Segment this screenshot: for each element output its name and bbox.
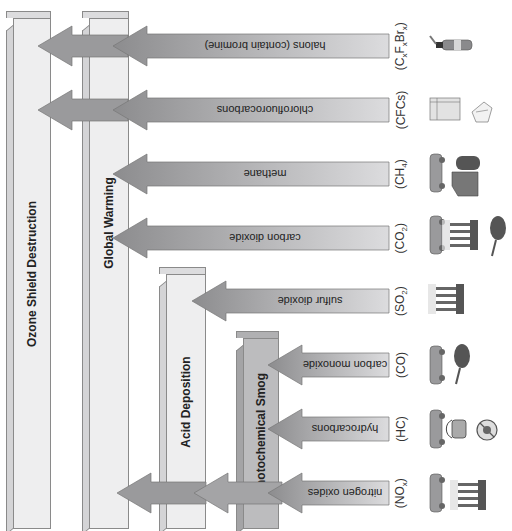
foam-container-icon xyxy=(472,102,492,122)
car-icon xyxy=(430,346,445,384)
fire-extinguisher-icon xyxy=(430,36,472,50)
pollutant-name-methane: methane xyxy=(244,168,287,180)
power-plant-icon xyxy=(450,480,486,510)
formula-halons: (CxFxBrx) xyxy=(392,20,410,72)
formula-co2: (CO2) xyxy=(392,218,410,258)
formula-cfcs: (CFCs) xyxy=(392,90,410,130)
power-plant-icon xyxy=(428,284,464,314)
landfill-icon xyxy=(452,156,480,196)
tree-cutting-icon xyxy=(454,344,470,384)
no-pesticide-icon xyxy=(477,420,497,440)
pollutant-name-co: carbon monoxide xyxy=(303,359,387,371)
car-icon xyxy=(430,154,445,192)
formula-so2: (SO2) xyxy=(392,281,410,321)
pollutant-name-co2: carbon dioxide xyxy=(229,232,301,244)
arrow-cfcs xyxy=(38,90,389,130)
formula-nox: (NOx) xyxy=(392,473,410,513)
power-plant-icon xyxy=(442,220,478,250)
source-icons xyxy=(412,0,512,531)
formula-ch4: (CH4) xyxy=(392,154,410,194)
car-icon xyxy=(430,474,445,512)
refrigerator-icon xyxy=(430,98,460,120)
pollutant-name-so2: sulfur dioxide xyxy=(278,295,343,307)
paint-bucket-icon xyxy=(446,420,466,438)
pollutant-name-hc: hydrocarbons xyxy=(312,423,379,435)
pollutant-name-halons: halons (contain bromine) xyxy=(204,40,325,52)
pollutant-name-cfcs: chlorofluorocarbons xyxy=(217,104,314,116)
pollutant-name-nox: nitrogen oxides xyxy=(308,487,383,499)
formula-co: (CO) xyxy=(392,345,410,385)
car-icon xyxy=(430,410,445,448)
tree-cutting-icon xyxy=(490,216,506,256)
formula-hc: (HC) xyxy=(392,409,410,449)
